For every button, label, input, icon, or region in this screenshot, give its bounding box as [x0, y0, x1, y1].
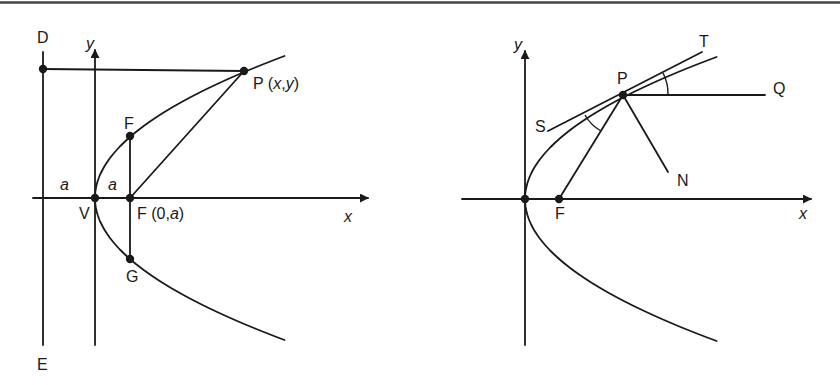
label-y-axis-right: y — [513, 36, 523, 53]
label-p-name: P — [253, 75, 263, 92]
label-v: V — [79, 205, 90, 222]
right-diagram: y x P T S Q N F — [462, 33, 811, 345]
label-focus: F (0,a) — [137, 205, 184, 222]
label-e: E — [37, 356, 48, 373]
label-focus-open: (0, — [147, 205, 170, 222]
label-t: T — [699, 33, 709, 50]
focal-line-fp — [559, 95, 623, 199]
label-focus-name: F — [137, 205, 147, 222]
focal-radius-fp — [130, 71, 244, 198]
label-y-axis: y — [85, 35, 95, 52]
focus-dot-right — [555, 195, 563, 203]
label-g: G — [126, 268, 138, 285]
label-f-right: F — [555, 205, 565, 222]
label-distance-a-left: a — [60, 176, 69, 193]
normal-line-pn — [623, 95, 668, 172]
label-p-close: ) — [294, 75, 299, 92]
vertex-dot — [91, 194, 99, 202]
label-focus-a: a — [170, 205, 179, 222]
point-g-dot — [126, 255, 134, 263]
focus-dot — [126, 194, 134, 202]
label-s: S — [535, 118, 546, 135]
point-p-dot-right — [619, 91, 627, 99]
label-q: Q — [773, 80, 785, 97]
label-n: N — [677, 172, 689, 189]
label-f-top: F — [124, 115, 134, 132]
label-x-axis-right: x — [798, 205, 808, 222]
label-distance-a-right: a — [108, 176, 117, 193]
label-p: P (x,y) — [253, 75, 299, 92]
point-f-top-dot — [126, 132, 134, 140]
label-d: D — [37, 29, 49, 46]
point-p-dot — [240, 67, 248, 75]
perpendicular-dp — [43, 69, 244, 71]
label-x-axis: x — [343, 208, 353, 225]
left-diagram: D E y x P (x,y) F G V F (0,a) a a — [33, 29, 368, 373]
label-focus-close: ) — [179, 205, 184, 222]
label-p-right: P — [617, 70, 628, 87]
parabola-figure: D E y x P (x,y) F G V F (0,a) a a — [0, 0, 840, 385]
point-d-dot — [39, 65, 47, 73]
vertex-dot-right — [521, 195, 529, 203]
